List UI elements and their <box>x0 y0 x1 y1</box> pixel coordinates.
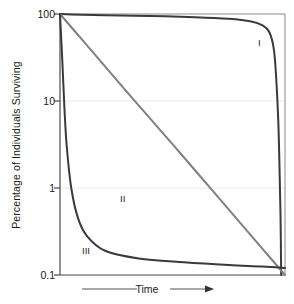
x-axis-title: Time <box>0 283 294 295</box>
y-tick-label-1-wrap: 1 <box>0 182 55 195</box>
chart-plot-area <box>0 0 294 304</box>
curve-label-i: I <box>258 37 261 48</box>
survivorship-curve-figure: Percentage of Individuals Surviving 100 … <box>0 0 294 304</box>
y-tick-label-100: 100 <box>37 8 55 20</box>
y-tick-label-1: 1 <box>49 182 55 194</box>
y-axis-title: Percentage of Individuals Surviving <box>10 25 22 265</box>
curve-type-ii <box>60 14 285 275</box>
y-tick-label-10: 10 <box>43 95 55 107</box>
curve-label-iii: III <box>82 245 90 256</box>
y-tick-label-10-wrap: 10 <box>0 95 55 108</box>
y-tick-marks <box>54 14 60 275</box>
y-tick-label-0-1: 0.1 <box>40 269 55 281</box>
curve-label-ii: II <box>120 193 125 204</box>
y-tick-label-0-1-wrap: 0.1 <box>0 269 55 282</box>
y-tick-label-100-wrap: 100 <box>0 8 55 21</box>
